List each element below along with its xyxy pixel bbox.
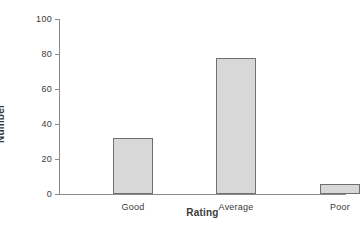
y-tick-mark [55,194,59,195]
y-tick-mark [55,54,59,55]
y-tick-label: 40 [41,119,52,129]
y-tick-mark [55,89,59,90]
y-tick-mark [55,19,59,20]
bar-chart: Number 0 20 40 60 80 100 [0,0,364,247]
y-tick-label: 20 [41,154,52,164]
y-tick-label: 60 [41,84,52,94]
y-tick-mark [55,124,59,125]
bar-poor[interactable] [320,184,360,195]
plot-area: 0 20 40 60 80 100 Good Average Poor [59,19,346,194]
y-axis-title: Number [0,0,40,247]
y-axis-line [59,19,60,194]
y-tick-label: 80 [41,49,52,59]
x-axis-line [59,194,346,195]
y-tick-mark [55,159,59,160]
bar-good[interactable] [113,138,153,194]
y-tick-label: 0 [47,189,52,199]
x-axis-title: Rating [59,207,346,218]
bar-average[interactable] [216,58,256,195]
y-tick-label: 100 [36,14,52,24]
